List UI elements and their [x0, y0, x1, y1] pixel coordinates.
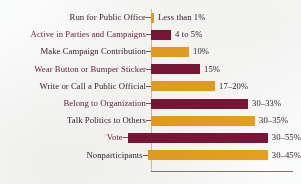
bar-area: 10%: [151, 43, 301, 60]
value-label-belong-to-organization: 30–33%: [248, 99, 281, 108]
bar-area: 17–20%: [151, 78, 301, 95]
bar-vote: [128, 133, 268, 143]
value-label-nonparticipants: 30–45%: [268, 151, 301, 160]
category-label-belong-to-organization: Belong to Organization: [0, 99, 146, 108]
chart-row: Talk Politics to Others 30–35%: [0, 112, 301, 129]
bar-area: 15%: [151, 61, 301, 78]
chart-row: Run for Public Office Less than 1%: [0, 9, 301, 26]
bar-wear-button-or-bumper-sticker: [151, 64, 200, 74]
bar-area: 30–45%: [148, 147, 301, 164]
chart-row: Vote 30–55%: [0, 129, 301, 146]
category-label-talk-politics-to-others: Talk Politics to Others: [0, 116, 146, 125]
bar-area: 30–35%: [151, 112, 301, 129]
chart-row: Active in Parties and Campaigns 4 to 5%: [0, 26, 301, 43]
bar-active-in-parties-and-campaigns: [151, 30, 171, 40]
horizontal-axis-line: [151, 171, 293, 172]
chart-row: Nonparticipants 30–45%: [0, 147, 301, 164]
bar-area: 30–33%: [151, 95, 301, 112]
chart-rows: Run for Public Office Less than 1% Activ…: [0, 9, 301, 164]
category-label-run-for-public-office: Run for Public Office: [0, 13, 146, 22]
value-label-run-for-public-office: Less than 1%: [154, 13, 206, 22]
category-label-make-campaign-contribution: Make Campaign Contribution: [0, 47, 146, 56]
bar-belong-to-organization: [151, 99, 248, 109]
category-label-wear-button-or-bumper-sticker: Wear Button or Bumper Sticker: [0, 65, 146, 74]
bar-area: 30–55%: [128, 129, 301, 146]
value-label-vote: 30–55%: [268, 133, 301, 142]
bar-talk-politics-to-others: [151, 116, 255, 126]
value-label-talk-politics-to-others: 30–35%: [255, 116, 288, 125]
bar-make-campaign-contribution: [151, 47, 189, 57]
category-label-write-or-call-a-public-official: Write or Call a Public Official: [0, 82, 146, 91]
chart-row: Write or Call a Public Official 17–20%: [0, 78, 301, 95]
category-label-nonparticipants: Nonparticipants: [0, 151, 143, 160]
category-label-vote: Vote: [0, 133, 123, 142]
chart-row: Belong to Organization 30–33%: [0, 95, 301, 112]
value-label-active-in-parties-and-campaigns: 4 to 5%: [171, 30, 202, 39]
category-label-active-in-parties-and-campaigns: Active in Parties and Campaigns: [0, 30, 146, 39]
bar-nonparticipants: [148, 150, 268, 160]
value-label-write-or-call-a-public-official: 17–20%: [215, 82, 248, 91]
bar-write-or-call-a-public-official: [151, 81, 215, 91]
chart-row: Wear Button or Bumper Sticker 15%: [0, 61, 301, 78]
value-label-wear-button-or-bumper-sticker: 15%: [200, 65, 220, 74]
bar-chart: Run for Public Office Less than 1% Activ…: [0, 0, 301, 184]
bar-area: Less than 1%: [151, 9, 301, 26]
bar-area: 4 to 5%: [151, 26, 301, 43]
chart-row: Make Campaign Contribution 10%: [0, 43, 301, 60]
value-label-make-campaign-contribution: 10%: [189, 47, 209, 56]
